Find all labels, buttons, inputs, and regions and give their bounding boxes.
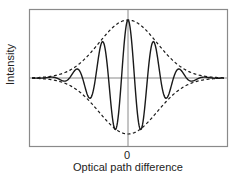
x-tick-zero: 0 bbox=[124, 149, 130, 161]
x-axis-label: Optical path difference bbox=[0, 161, 238, 173]
y-axis-label: Intensity bbox=[4, 71, 16, 85]
interferogram-plot bbox=[0, 0, 238, 177]
y-axis-label-text: Intensity bbox=[4, 44, 16, 85]
